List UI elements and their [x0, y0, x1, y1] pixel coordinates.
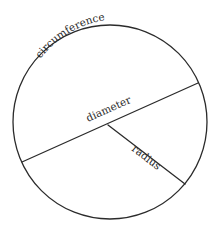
- radius-label: radius: [130, 142, 164, 172]
- diameter-line: [22, 83, 198, 162]
- diameter-label: diameter: [84, 93, 134, 124]
- circle-diagram: circumference diameter radius: [0, 0, 218, 232]
- circumference-label-text: circumference: [33, 10, 106, 60]
- circle-diagram-canvas: circumference diameter radius: [0, 0, 218, 232]
- circumference-label: circumference: [33, 10, 106, 60]
